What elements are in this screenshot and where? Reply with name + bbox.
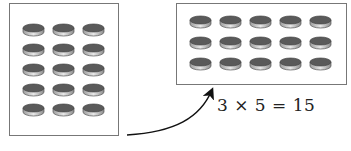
curved-arrow-icon bbox=[0, 0, 351, 151]
equation-label: 3 × 5 = 15 bbox=[217, 95, 315, 115]
